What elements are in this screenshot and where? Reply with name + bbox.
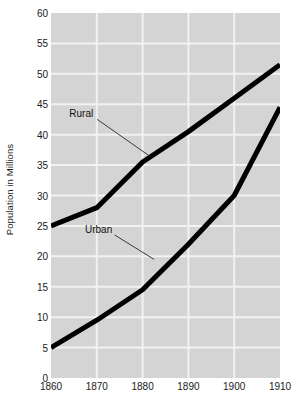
series-line-urban bbox=[51, 107, 280, 347]
x-tick-label: 1880 bbox=[131, 381, 153, 392]
y-tick-label: 30 bbox=[4, 190, 48, 201]
y-tick-label: 20 bbox=[4, 251, 48, 262]
y-tick-label: 25 bbox=[4, 220, 48, 231]
y-tick-label: 50 bbox=[4, 68, 48, 79]
y-tick-label: 5 bbox=[4, 342, 48, 353]
x-axis-tick-labels: 186018701880189019001910 bbox=[0, 381, 292, 401]
y-axis-tick-labels: 051015202530354045505560 bbox=[0, 0, 48, 406]
y-tick-label: 60 bbox=[4, 8, 48, 19]
plot-area: RuralUrban bbox=[51, 13, 280, 378]
x-tick-label: 1910 bbox=[269, 381, 291, 392]
y-tick-label: 35 bbox=[4, 160, 48, 171]
y-tick-label: 40 bbox=[4, 129, 48, 140]
x-tick-label: 1870 bbox=[86, 381, 108, 392]
y-tick-label: 15 bbox=[4, 281, 48, 292]
y-tick-label: 45 bbox=[4, 99, 48, 110]
y-tick-label: 10 bbox=[4, 312, 48, 323]
annotation-leader-lines bbox=[97, 119, 154, 259]
plot-svg bbox=[51, 13, 280, 378]
gridlines bbox=[51, 13, 280, 378]
chart-figure: Population in Millions 05101520253035404… bbox=[0, 0, 292, 406]
series-line-rural bbox=[51, 65, 280, 226]
x-tick-label: 1900 bbox=[223, 381, 245, 392]
y-tick-label: 55 bbox=[4, 38, 48, 49]
series-lines bbox=[51, 65, 280, 348]
x-tick-label: 1890 bbox=[177, 381, 199, 392]
x-tick-label: 1860 bbox=[40, 381, 62, 392]
